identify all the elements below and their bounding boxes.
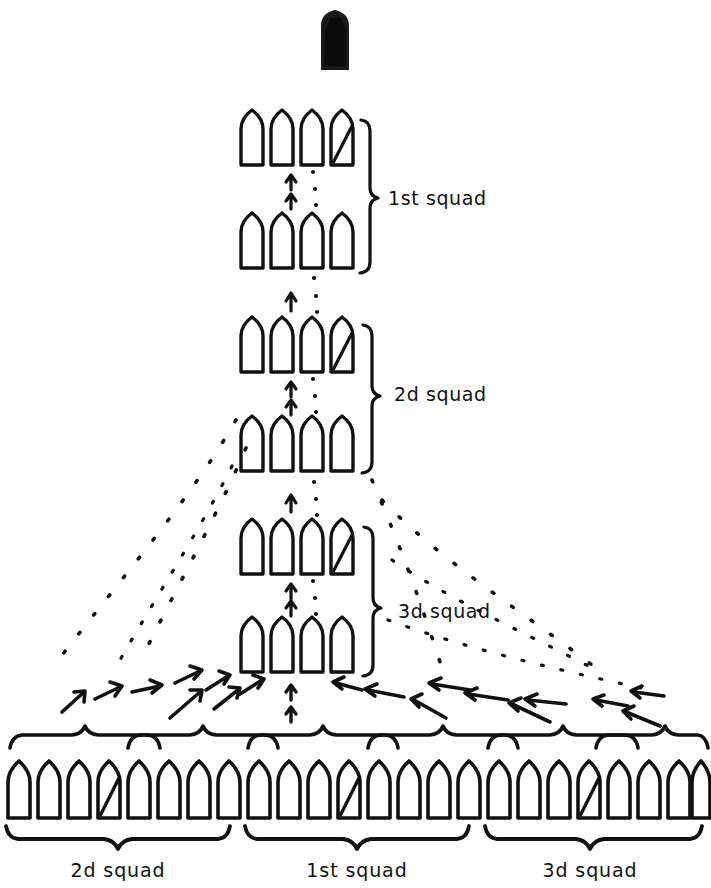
column-rank-2 — [241, 213, 353, 268]
soldier-icon — [241, 617, 263, 672]
column-rank-3 — [241, 317, 353, 372]
soldier-icon — [301, 317, 323, 372]
soldier-icon — [248, 761, 270, 818]
arrow-right-8 — [411, 694, 446, 718]
movement-arrow-up-icon — [286, 495, 296, 512]
soldier-icon — [278, 761, 300, 818]
soldier-icon — [548, 761, 570, 818]
deployment-trace-lines-fine — [120, 466, 650, 690]
brace-1st-squad — [360, 120, 378, 273]
soldier-icon — [331, 213, 353, 268]
squad-leader-soldier-icon — [331, 519, 353, 574]
line-of-squads — [8, 761, 710, 818]
squad-leader-soldier-icon — [98, 761, 120, 818]
soldier-icon — [301, 110, 323, 165]
soldier-icon — [241, 519, 263, 574]
soldier-icon — [368, 761, 390, 818]
line-label-3d-squad: 3d squad — [542, 859, 637, 881]
movement-arrow-up-icon — [286, 584, 296, 599]
half-squad-brace-6 — [596, 726, 708, 748]
arrow-right-1 — [333, 677, 362, 690]
deployment-arrows-left — [62, 666, 264, 718]
trace-right-inner — [372, 480, 440, 662]
arrow-left-4 — [170, 690, 202, 718]
column-dot-trail — [312, 276, 319, 314]
soldier-icon — [398, 761, 420, 818]
column-squad-braces — [360, 120, 381, 676]
column-rank-6 — [241, 617, 353, 672]
squad-leader-soldier-icon — [331, 317, 353, 372]
soldier-icon — [518, 761, 540, 818]
soldier-icon — [308, 761, 330, 818]
squad-brace-1st — [245, 826, 469, 849]
trace-right-outer — [382, 500, 596, 668]
soldier-icon — [458, 761, 480, 818]
column-dot-trail — [311, 170, 318, 207]
movement-arrow-up-icon — [286, 400, 296, 415]
column-rank-5 — [241, 519, 353, 574]
squad-leader-soldier-icon — [331, 110, 353, 165]
arrow-left-7 — [214, 687, 240, 709]
arrow-left-6 — [206, 671, 230, 690]
brace-3d-squad — [363, 527, 381, 676]
soldier-icon — [188, 761, 210, 818]
soldier-icon — [271, 617, 293, 672]
trace-left-mid — [120, 466, 232, 660]
arrow-right-5 — [525, 694, 566, 706]
squad-braces-bottom — [6, 826, 702, 849]
column-rank-1 — [241, 110, 353, 165]
soldier-icon — [692, 761, 710, 818]
arrow-left-2 — [95, 682, 122, 699]
arrow-left-1 — [62, 691, 85, 712]
line-label-1st-squad: 1st squad — [306, 859, 407, 881]
movement-arrow-up-icon — [286, 685, 296, 700]
arrow-right-10 — [623, 706, 660, 726]
movement-arrow-up-icon — [286, 382, 296, 397]
soldier-icon — [488, 761, 510, 818]
deployment-arrows-right — [333, 677, 664, 726]
formation-diagram: 1st squad 2d squad 3d squad — [0, 0, 711, 888]
soldier-icon — [38, 761, 60, 818]
arrow-left-3 — [132, 680, 162, 693]
soldier-icon — [241, 317, 263, 372]
platoon-leader-icon — [322, 11, 348, 69]
soldier-icon — [271, 317, 293, 372]
line-label-2d-squad: 2d squad — [70, 859, 165, 881]
brace-2d-squad — [362, 325, 380, 473]
arrow-left-5 — [175, 666, 202, 683]
arrow-right-6 — [593, 695, 628, 706]
squad-brace-3d — [485, 826, 702, 849]
column-dot-trail — [311, 579, 318, 616]
arrow-right-3 — [429, 678, 470, 690]
squad-brace-2d — [6, 826, 230, 849]
soldier-icon — [68, 761, 90, 818]
soldier-icon — [241, 213, 263, 268]
soldier-icon — [301, 617, 323, 672]
soldier-icon — [428, 761, 450, 818]
soldier-icon — [158, 761, 180, 818]
soldier-icon — [271, 416, 293, 471]
column-rank-4 — [241, 416, 353, 471]
soldier-icon — [271, 213, 293, 268]
movement-arrow-up-icon — [286, 194, 296, 209]
soldier-icon — [271, 519, 293, 574]
column-dot-trail — [311, 377, 318, 414]
squad-leader-soldier-icon — [578, 761, 600, 818]
soldier-icon — [331, 617, 353, 672]
half-squad-braces-top — [10, 726, 708, 748]
soldier-icon — [331, 416, 353, 471]
soldier-icon — [218, 761, 240, 818]
soldier-icon — [128, 761, 150, 818]
arrow-right-2 — [365, 684, 404, 697]
trace-left-inner — [140, 448, 246, 662]
column-label-1st-squad: 1st squad — [388, 187, 487, 209]
formation-diagram-canvas: 1st squad 2d squad 3d squad — [0, 0, 711, 888]
soldier-icon — [668, 761, 690, 818]
movement-arrow-up-icon — [286, 175, 296, 190]
soldier-icon — [271, 110, 293, 165]
trace-left-outer — [52, 420, 236, 668]
column-label-2d-squad: 2d squad — [394, 383, 487, 405]
soldier-icon — [8, 761, 30, 818]
movement-arrow-up-icon — [286, 601, 296, 616]
soldier-icon — [638, 761, 660, 818]
